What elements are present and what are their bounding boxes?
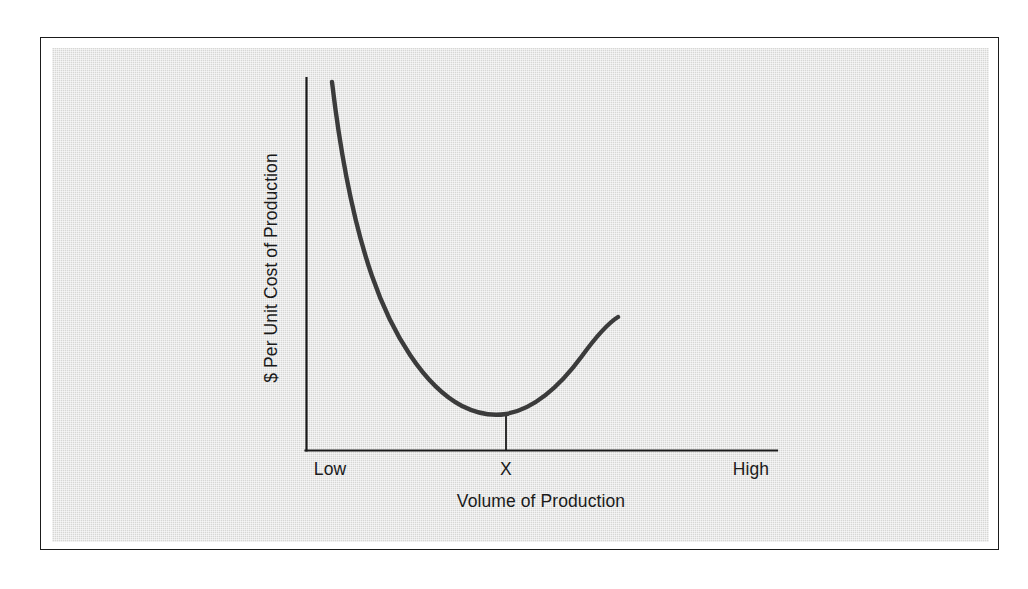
x-tick-label-high: High bbox=[733, 461, 769, 479]
y-axis-title: $ Per Unit Cost of Production bbox=[263, 153, 281, 383]
x-axis-title: Volume of Production bbox=[457, 493, 625, 511]
figure-plate-background bbox=[52, 48, 989, 542]
x-tick-label-low: Low bbox=[314, 461, 346, 479]
x-tick-label-x: X bbox=[500, 461, 512, 479]
figure-root: $ Per Unit Cost of Production Volume of … bbox=[0, 0, 1028, 589]
